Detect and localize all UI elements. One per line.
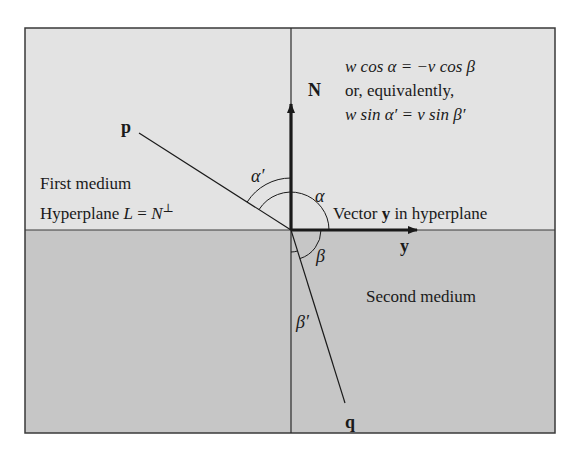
beta-label: β — [315, 246, 325, 266]
refraction-diagram: N y p q α′ α β β′ First medium Hyperplan… — [0, 0, 573, 455]
equation-line-2: or, equivalently, — [345, 81, 454, 100]
diagram-canvas: N y p q α′ α β β′ First medium Hyperplan… — [0, 0, 573, 455]
equation-line-3: w sin α′ = v sin β′ — [345, 105, 466, 124]
q-label: q — [345, 412, 355, 432]
beta-prime-label: β′ — [295, 312, 310, 332]
equation-line-1: w cos α = −v cos β — [345, 57, 476, 76]
hyperplane-label: Hyperplane L = N⊥ — [40, 201, 174, 223]
second-medium-region — [25, 230, 555, 433]
first-medium-label: First medium — [40, 174, 131, 193]
y-label: y — [400, 236, 409, 256]
p-label: p — [121, 117, 131, 137]
normal-label: N — [308, 80, 321, 100]
alpha-prime-label: α′ — [251, 166, 265, 186]
second-medium-label: Second medium — [366, 287, 476, 306]
y-caption: Vector y in hyperplane — [333, 204, 487, 223]
alpha-label: α — [315, 186, 325, 206]
